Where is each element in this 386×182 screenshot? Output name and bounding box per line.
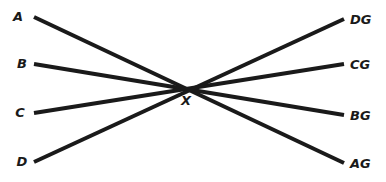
lines <box>34 17 344 163</box>
label-d: D <box>17 154 28 169</box>
label-c: C <box>15 105 25 120</box>
label-x-center: X <box>180 93 192 108</box>
label-dg: DG <box>350 12 372 27</box>
label-ag: AG <box>349 156 371 171</box>
label-bg: BG <box>350 108 371 123</box>
label-cg: CG <box>350 57 371 72</box>
left-labels: A B C D <box>12 9 28 169</box>
label-b: B <box>17 56 27 71</box>
crossing-lines-diagram: A B C D DG CG BG AG X <box>0 0 386 182</box>
right-labels: DG CG BG AG <box>349 12 372 171</box>
label-a: A <box>12 9 23 24</box>
